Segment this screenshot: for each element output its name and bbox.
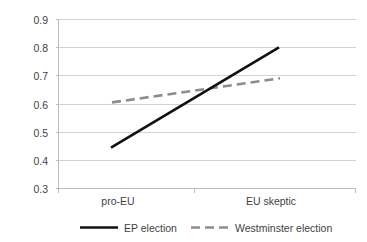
- y-tick-label: 0.5: [33, 127, 48, 139]
- y-tick-label: 0.3: [33, 183, 48, 195]
- x-axis-labels: pro-EU EU skeptic: [101, 195, 296, 207]
- y-tick-label: 0.4: [33, 155, 48, 167]
- y-tick-label: 0.6: [33, 99, 48, 111]
- x-tick-label-pro-eu: pro-EU: [101, 195, 134, 207]
- line-chart: 0.9 0.8 0.7 0.6 0.5 0.4 0.3 pro-EU EU sk…: [0, 0, 367, 242]
- gridlines: [59, 20, 356, 189]
- x-tick-label-eu-skeptic: EU skeptic: [246, 195, 296, 207]
- y-tick-label: 0.9: [33, 14, 48, 26]
- series-line-westminster-election: [112, 78, 280, 102]
- chart-container: 0.9 0.8 0.7 0.6 0.5 0.4 0.3 pro-EU EU sk…: [0, 0, 367, 242]
- legend-label-westminster-election: Westminster election: [235, 222, 332, 234]
- chart-legend: EP election Westminster election: [80, 222, 332, 234]
- x-tickmarks: [59, 189, 356, 193]
- legend-label-ep-election: EP election: [124, 222, 177, 234]
- y-tick-label: 0.8: [33, 42, 48, 54]
- y-axis-labels: 0.9 0.8 0.7 0.6 0.5 0.4 0.3: [33, 14, 48, 195]
- y-tick-label: 0.7: [33, 70, 48, 82]
